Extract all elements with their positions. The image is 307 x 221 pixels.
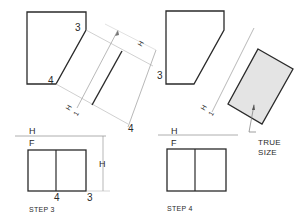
step3-fold-f: F: [29, 139, 35, 148]
step4-fold-h: H: [171, 127, 178, 136]
drawing-canvas: [0, 0, 307, 221]
step3-label-point3: 3: [75, 23, 81, 33]
step3-dim-ext: [105, 24, 156, 50]
step3-front-dim-h: H: [99, 160, 106, 169]
step3-label-point4: 4: [48, 76, 54, 86]
step3-aux-point3: 3: [157, 71, 163, 81]
step4-true-label: TRUE: [258, 139, 281, 147]
step3-front-view: [28, 150, 86, 191]
step3-aux-point4: 4: [128, 124, 134, 134]
step4-fold-f: F: [171, 139, 177, 148]
step3-front-point3: 3: [87, 193, 93, 203]
step4-front-view: [167, 149, 226, 191]
step3-front-point4: 4: [54, 193, 60, 203]
step3-fold-h: H: [29, 127, 36, 136]
step3-edge-view: [92, 51, 122, 105]
step3-aux-outline: [128, 50, 156, 127]
step3-projection-line-3: [86, 30, 153, 66]
step4-top-view: [166, 11, 224, 84]
step3-caption: STEP 3: [29, 206, 55, 213]
step4-caption: STEP 4: [167, 205, 193, 212]
step4-size-label: SIZE: [258, 149, 277, 157]
